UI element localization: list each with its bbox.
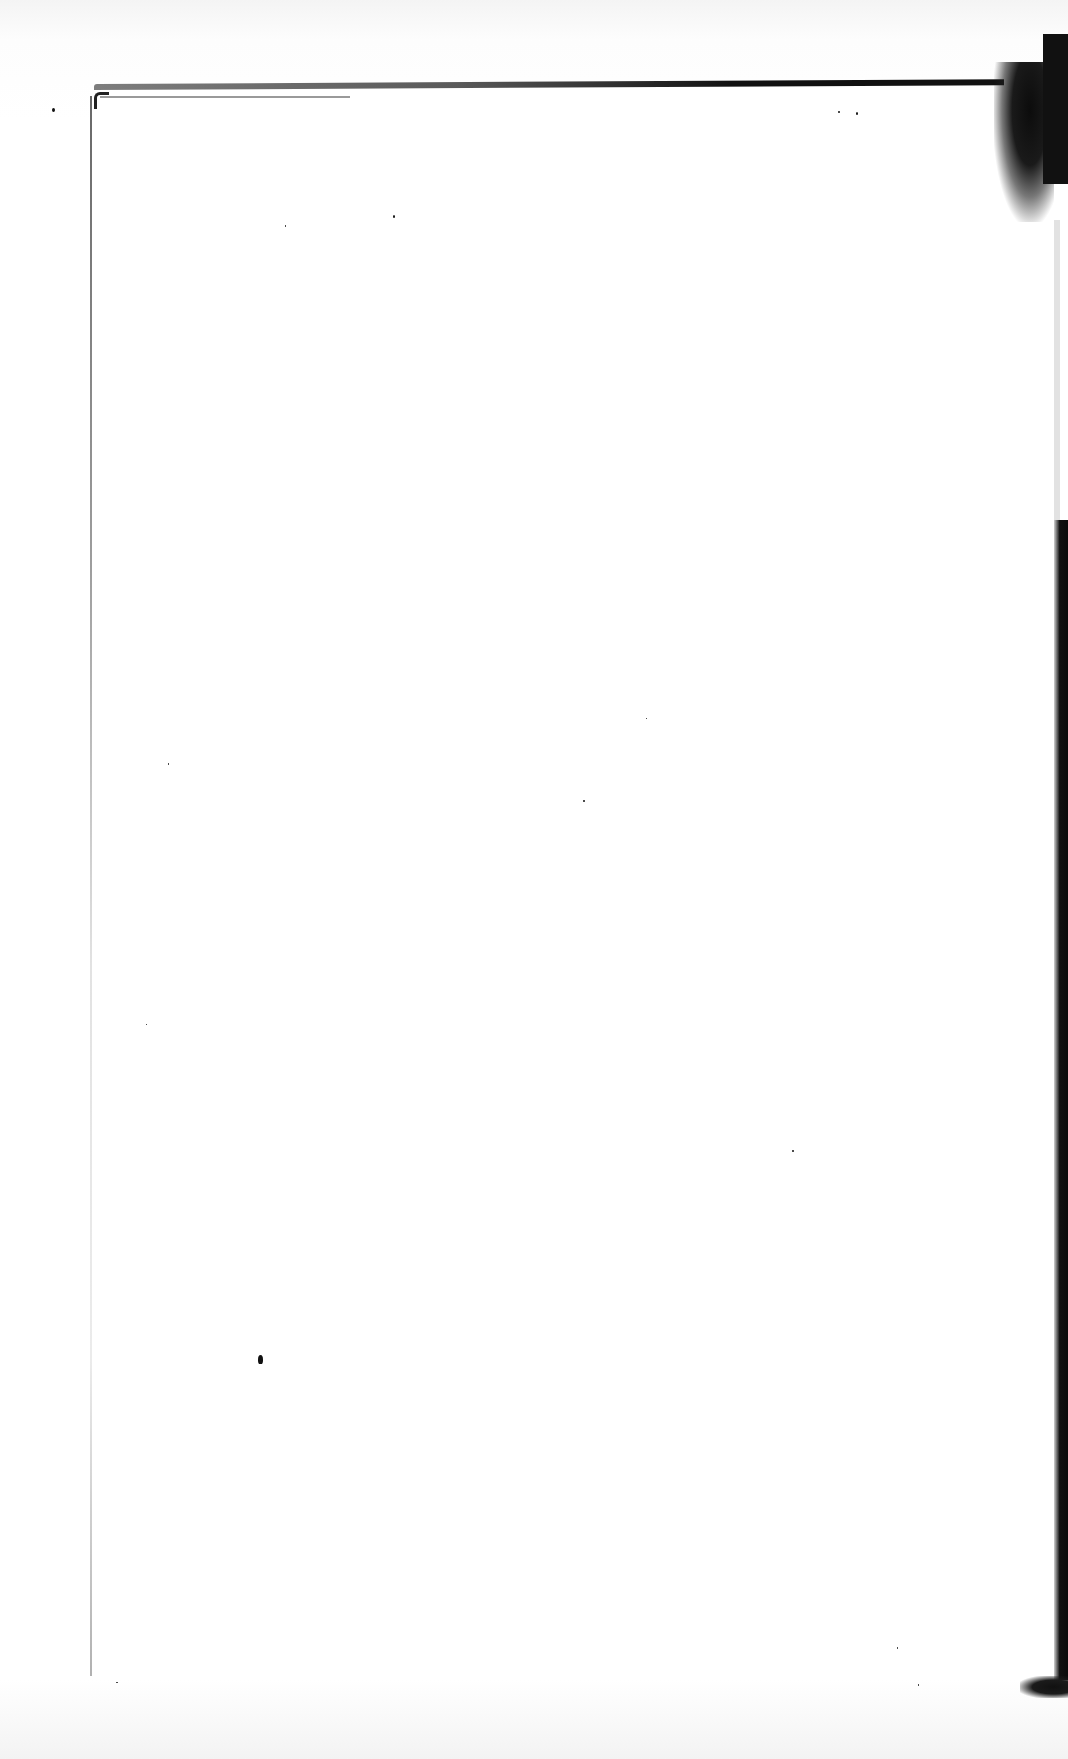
page-corner-top-left xyxy=(94,92,109,109)
dust-speck xyxy=(856,112,858,115)
dust-speck xyxy=(838,111,840,113)
page-edge-top-shadow xyxy=(100,96,350,98)
dust-speck xyxy=(583,800,585,802)
dust-speck xyxy=(897,1647,898,1649)
scan-smudge-bottom-right xyxy=(1020,1676,1068,1698)
page-edge-left xyxy=(90,96,92,1676)
dust-speck xyxy=(285,225,286,227)
dust-speck xyxy=(116,1682,118,1683)
binding-edge-top-right xyxy=(1043,34,1068,184)
dust-speck xyxy=(918,1684,919,1686)
blank-page xyxy=(90,88,1050,1673)
dust-speck xyxy=(52,108,55,112)
dust-speck xyxy=(792,1150,794,1152)
dust-speck xyxy=(168,763,169,765)
dust-speck xyxy=(146,1024,147,1025)
binding-edge-right-faint xyxy=(1054,220,1060,520)
binding-edge-right xyxy=(1054,520,1068,1680)
dust-speck xyxy=(258,1355,263,1364)
dust-speck xyxy=(646,718,647,719)
dust-speck xyxy=(393,215,395,218)
